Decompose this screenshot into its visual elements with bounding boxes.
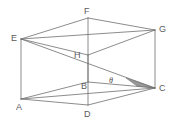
vertex-label-A: A (16, 103, 22, 112)
vertex-label-C: C (159, 84, 166, 93)
edge-E-F (21, 18, 88, 39)
vertex-label-H: H (74, 51, 81, 60)
geometry-figure: A B C D E F G H θ (0, 0, 175, 135)
vertex-label-G: G (159, 25, 166, 34)
edge-F-G (88, 18, 155, 30)
vertex-label-B: B (81, 82, 87, 91)
angle-theta-label: θ (109, 77, 113, 85)
vertex-label-F: F (84, 7, 90, 16)
vertex-label-E: E (11, 34, 17, 43)
vertex-label-D: D (84, 110, 91, 119)
edge-A-D (21, 99, 88, 105)
